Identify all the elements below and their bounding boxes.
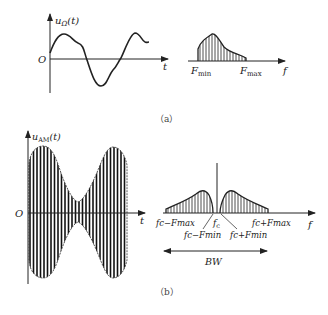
frequency-axis-label: f (307, 219, 314, 230)
x-axis-label: t (163, 61, 168, 72)
am-modulation-figure: uΩ(t) O t Fmin Fmax f （a） (0, 0, 328, 315)
fc-plus-fmin-label: fc+Fmin (229, 230, 267, 240)
leader-lower-min (203, 214, 213, 229)
am-time-plot: uAM(t) O t (15, 131, 145, 285)
fc-minus-fmax-label: fc−Fmax (155, 218, 195, 228)
caption-b: （b） (155, 287, 179, 297)
y-axis-label: uΩ(t) (55, 15, 79, 28)
x-axis-label: t (140, 215, 145, 226)
f-min-label: Fmin (190, 65, 212, 78)
lower-sideband-envelope (166, 191, 213, 213)
upper-sideband-hatching (223, 185, 265, 213)
frequency-axis-label: f (282, 65, 289, 76)
fc-plus-fmax-label: fc+Fmax (251, 218, 291, 228)
f-max-label: Fmax (239, 65, 262, 78)
bandwidth-label: BW (204, 256, 223, 267)
origin-label: O (15, 208, 23, 219)
leader-upper-min (221, 214, 237, 229)
baseband-spectrum: Fmin Fmax f (188, 30, 289, 78)
origin-label: O (38, 54, 46, 65)
fc-minus-fmin-label: fc−Fmin (183, 230, 221, 240)
y-axis-label: uAM(t) (32, 131, 61, 144)
am-spectrum: fc−Fmax fc fc+Fmax fc−Fmin fc+Fmin f BW (155, 163, 315, 267)
baseband-time-plot: uΩ(t) O t (38, 14, 168, 93)
fc-label: fc (212, 218, 220, 230)
caption-a: （a） (155, 114, 178, 124)
